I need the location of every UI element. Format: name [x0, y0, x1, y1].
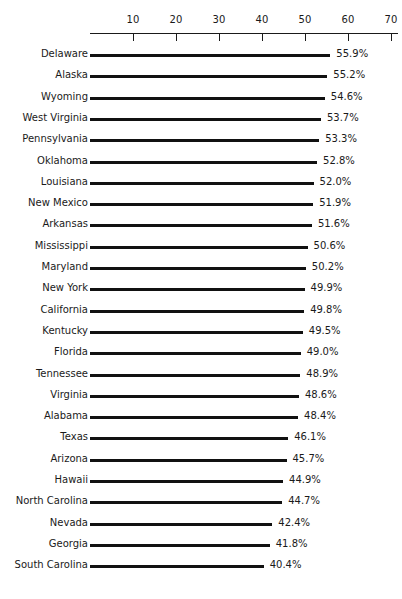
value-label: 49.5% — [309, 325, 341, 337]
value-label: 42.4% — [278, 517, 310, 529]
chart-row: Louisiana52.0% — [0, 174, 402, 195]
chart-row: Georgia41.8% — [0, 536, 402, 557]
axis-tick-label: 30 — [207, 15, 231, 25]
chart-row: Arkansas51.6% — [0, 216, 402, 237]
category-label: Nevada — [50, 517, 88, 529]
chart-axis: 10203040506070 — [0, 0, 402, 46]
value-label: 48.6% — [305, 389, 337, 401]
chart-row: Delaware55.9% — [0, 46, 402, 67]
bar — [90, 544, 270, 547]
bar — [90, 437, 288, 440]
bar — [90, 161, 317, 164]
value-label: 52.0% — [320, 176, 352, 188]
chart-row: South Carolina40.4% — [0, 557, 402, 578]
bar — [90, 523, 272, 526]
axis-tick-label: 70 — [379, 15, 402, 25]
category-label: Mississippi — [35, 240, 88, 252]
value-label: 41.8% — [276, 538, 308, 550]
bar — [90, 182, 314, 185]
value-label: 48.9% — [306, 368, 338, 380]
bar — [90, 97, 325, 100]
category-label: Hawaii — [54, 474, 88, 486]
chart-row: Texas46.1% — [0, 429, 402, 450]
category-label: South Carolina — [15, 559, 88, 571]
chart-row: Oklahoma52.8% — [0, 153, 402, 174]
category-label: California — [41, 304, 89, 316]
axis-line — [90, 33, 398, 34]
bar — [90, 395, 299, 398]
chart-row: Wyoming54.6% — [0, 89, 402, 110]
value-label: 45.7% — [293, 453, 325, 465]
axis-tick — [348, 34, 349, 41]
axis-tick — [305, 34, 306, 41]
axis-tick — [262, 34, 263, 41]
chart-row: Maryland50.2% — [0, 259, 402, 280]
value-label: 49.8% — [310, 304, 342, 316]
bar — [90, 54, 330, 57]
category-label: Virginia — [50, 389, 88, 401]
axis-tick-label: 60 — [336, 15, 360, 25]
value-label: 50.2% — [312, 261, 344, 273]
bar — [90, 139, 319, 142]
value-label: 48.4% — [304, 410, 336, 422]
value-label: 53.7% — [327, 112, 359, 124]
chart-row: California49.8% — [0, 302, 402, 323]
category-label: Alabama — [44, 410, 88, 422]
horizontal-bar-chart: 10203040506070 Delaware55.9%Alaska55.2%W… — [0, 0, 402, 599]
bar — [90, 118, 321, 121]
bar — [90, 480, 283, 483]
chart-row: Florida49.0% — [0, 344, 402, 365]
category-label: Pennsylvania — [22, 133, 88, 145]
bar — [90, 246, 308, 249]
bar — [90, 331, 303, 334]
chart-row: Mississippi50.6% — [0, 238, 402, 259]
axis-tick — [133, 34, 134, 41]
axis-tick — [219, 34, 220, 41]
value-label: 49.0% — [307, 346, 339, 358]
axis-tick-label: 40 — [250, 15, 274, 25]
bar — [90, 352, 301, 355]
category-label: New Mexico — [28, 197, 88, 209]
category-label: Kentucky — [42, 325, 88, 337]
value-label: 52.8% — [323, 155, 355, 167]
category-label: North Carolina — [16, 495, 88, 507]
axis-tick-label: 10 — [121, 15, 145, 25]
bar — [90, 267, 306, 270]
category-label: Maryland — [42, 261, 88, 273]
bar — [90, 416, 298, 419]
bar — [90, 459, 287, 462]
chart-row: Kentucky49.5% — [0, 323, 402, 344]
value-label: 44.7% — [288, 495, 320, 507]
axis-tick-label: 50 — [293, 15, 317, 25]
chart-row: New Mexico51.9% — [0, 195, 402, 216]
category-label: Florida — [54, 346, 88, 358]
chart-row: North Carolina44.7% — [0, 493, 402, 514]
value-label: 55.2% — [333, 69, 365, 81]
bar — [90, 224, 312, 227]
category-label: West Virginia — [23, 112, 88, 124]
chart-row: Nevada42.4% — [0, 515, 402, 536]
axis-tick — [176, 34, 177, 41]
chart-row: Alaska55.2% — [0, 67, 402, 88]
category-label: Louisiana — [41, 176, 88, 188]
value-label: 51.6% — [318, 218, 350, 230]
value-label: 40.4% — [270, 559, 302, 571]
bar — [90, 203, 313, 206]
category-label: Arizona — [50, 453, 88, 465]
category-label: New York — [42, 282, 88, 294]
value-label: 46.1% — [294, 431, 326, 443]
category-label: Alaska — [55, 69, 88, 81]
value-label: 49.9% — [311, 282, 343, 294]
chart-row: Pennsylvania53.3% — [0, 131, 402, 152]
bar — [90, 75, 327, 78]
category-label: Georgia — [49, 538, 88, 550]
chart-row: Virginia48.6% — [0, 387, 402, 408]
value-label: 55.9% — [336, 48, 368, 60]
value-label: 54.6% — [331, 91, 363, 103]
axis-tick — [391, 34, 392, 41]
bar — [90, 288, 305, 291]
bar — [90, 565, 264, 568]
category-label: Tennessee — [36, 368, 88, 380]
value-label: 44.9% — [289, 474, 321, 486]
chart-row: Hawaii44.9% — [0, 472, 402, 493]
